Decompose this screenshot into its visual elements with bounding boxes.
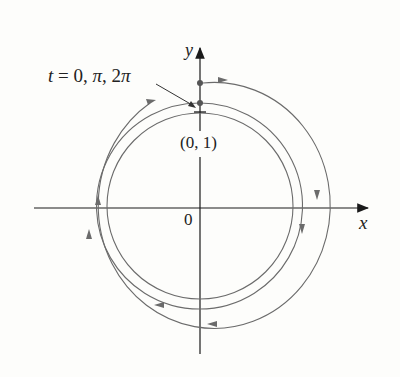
start-dot-outer bbox=[197, 80, 203, 86]
origin-label: 0 bbox=[184, 210, 193, 230]
y-axis-label: y bbox=[185, 40, 193, 61]
annotation-comma: , 2 bbox=[102, 65, 121, 86]
annotation-values: = 0, bbox=[53, 65, 92, 86]
pi-symbol-2: π bbox=[121, 65, 131, 86]
direction-arrows bbox=[86, 77, 320, 327]
time-annotation: t = 0, π, 2π bbox=[48, 65, 131, 87]
outer-loop bbox=[98, 82, 330, 328]
start-dot-middle bbox=[197, 100, 203, 106]
pi-symbol: π bbox=[93, 65, 103, 86]
annotation-pointer bbox=[156, 84, 194, 106]
spiral-diagram bbox=[0, 0, 400, 377]
x-axis-label: x bbox=[359, 212, 367, 234]
point-label: (0, 1) bbox=[180, 133, 217, 153]
